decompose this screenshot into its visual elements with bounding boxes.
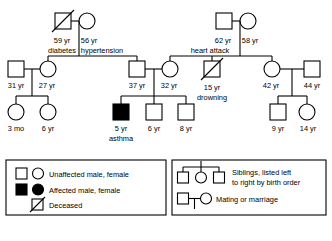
person-symbol-male-62[interactable]	[216, 13, 232, 29]
label-age-male-37: 37 yr	[129, 81, 146, 90]
legend-siblings-group-icon	[178, 161, 225, 183]
person-symbol-male-44[interactable]	[304, 61, 320, 77]
label-age-female-6yr-a: 6 yr	[42, 124, 55, 133]
person-symbol-female-27[interactable]	[40, 61, 56, 77]
legend-label-mating: Mating or marriage	[216, 195, 278, 204]
legend: Unaffected male, female Affected male, f…	[6, 160, 326, 215]
legend-label-affected: Affected male, female	[49, 186, 120, 195]
label-age-male-62: 62 yr	[215, 36, 232, 45]
descent-lines-gen2-c	[278, 69, 307, 104]
person-symbol-male-8yr[interactable]	[178, 104, 194, 120]
label-age-female-14yr: 14 yr	[300, 124, 317, 133]
person-symbol-female-14yr[interactable]	[299, 104, 315, 120]
person-symbol-male-6yr-b[interactable]	[146, 104, 162, 120]
label-age-female-3mo: 3 mo	[8, 124, 24, 133]
label-age-male-6yr-b: 6 yr	[148, 124, 161, 133]
person-symbol-female-42[interactable]	[264, 61, 280, 77]
gen3-children-a: 3 mo 6 yr	[8, 104, 56, 133]
label-age-male-44: 44 yr	[304, 81, 321, 90]
label-age-male-5yr: 5 yr	[115, 124, 128, 133]
person-symbol-female-56[interactable]	[79, 13, 95, 29]
label-condition-female-56: hypertension	[81, 46, 123, 55]
legend-label-deceased: Deceased	[49, 201, 82, 210]
person-symbol-male-5yr-affected[interactable]	[113, 104, 129, 120]
legend-label-siblings-line1: Siblings, listed left	[232, 168, 291, 177]
pedigree-chart: 59 yr diabetes 56 yr hypertension 62 yr …	[0, 0, 332, 241]
legend-label-unaffected: Unaffected male, female	[49, 170, 129, 179]
legend-circle-affected-icon	[33, 184, 44, 195]
label-condition-male-62: heart attack	[191, 46, 230, 55]
label-age-male-15: 15 yr	[204, 83, 221, 92]
legend-square-unaffected-icon	[16, 168, 27, 179]
person-symbol-male-9yr[interactable]	[270, 104, 286, 120]
legend-mating-icon	[178, 193, 212, 209]
person-symbol-female-32[interactable]	[162, 61, 178, 77]
label-age-male-31: 31 yr	[8, 81, 25, 90]
gen1-couple-right: 62 yr heart attack 58 yr	[191, 13, 259, 55]
legend-circle-unaffected-icon	[33, 168, 44, 179]
label-condition-male-15: drowning	[197, 93, 227, 102]
person-symbol-female-58[interactable]	[240, 13, 256, 29]
label-age-male-8yr: 8 yr	[180, 124, 193, 133]
label-age-female-32: 32 yr	[161, 81, 178, 90]
person-symbol-female-3mo[interactable]	[8, 104, 24, 120]
person-symbol-male-37[interactable]	[129, 61, 145, 77]
label-age-male-9yr: 9 yr	[272, 124, 285, 133]
legend-square-affected-icon	[16, 184, 27, 195]
person-symbol-male-31[interactable]	[8, 61, 24, 77]
gen2-person-15: 15 yr drowning	[197, 58, 227, 102]
label-age-female-58: 58 yr	[242, 36, 259, 45]
label-condition-male-59: diabetes	[48, 46, 76, 55]
person-symbol-female-6yr-a[interactable]	[40, 104, 56, 120]
label-age-female-27: 27 yr	[39, 81, 56, 90]
label-age-female-56: 56 yr	[81, 36, 98, 45]
gen3-children-c: 9 yr 14 yr	[270, 104, 317, 133]
legend-label-siblings-line2: to right by birth order	[232, 178, 301, 187]
label-age-male-59: 59 yr	[54, 36, 71, 45]
gen2-couple-b: 37 yr 32 yr	[129, 61, 178, 90]
label-age-female-42: 42 yr	[263, 81, 280, 90]
label-condition-male-5yr: asthma	[109, 134, 134, 143]
gen3-children-b: 5 yr asthma 6 yr 8 yr	[109, 104, 194, 143]
gen1-couple-left: 59 yr diabetes 56 yr hypertension	[48, 10, 123, 55]
